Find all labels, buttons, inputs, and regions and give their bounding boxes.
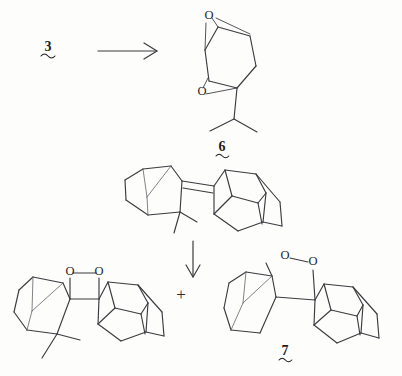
- peroxide-oxygen-1-label: O: [280, 248, 289, 262]
- dx-left-bond-6: [27, 330, 57, 334]
- compound-3-label: 3: [45, 39, 52, 54]
- dx-left-bridge-b: [27, 311, 32, 330]
- bicyclic-bridge-b: [147, 197, 148, 215]
- dioxetane-oxygen-1-label: O: [65, 264, 74, 278]
- c7-adam-bond-15: [361, 333, 379, 338]
- c7-adam-bond-9: [314, 310, 331, 325]
- adam-bond-5: [238, 222, 263, 231]
- bicyclic-bond-4: [148, 212, 180, 215]
- isopropyl-methyl-left: [210, 119, 234, 131]
- c7-adam-bond-6: [314, 325, 337, 343]
- gem-methyl-2: [174, 212, 180, 233]
- dx-left-bond-7: [57, 299, 70, 334]
- c7-adam-bond-7: [314, 300, 315, 325]
- dioxetane-oxygen-2-label: O: [94, 264, 103, 278]
- bicyclic-bond-7: [125, 169, 143, 180]
- compound-6-label: 6: [219, 139, 226, 154]
- c7-left-bond-3: [229, 272, 246, 283]
- dx-adam-bond-10: [115, 308, 141, 314]
- dx-left-bridge-a: [32, 277, 33, 311]
- adam-bond-4: [263, 193, 266, 222]
- reaction-arrow-right: [98, 43, 157, 59]
- alkene-reactant-structure: [125, 166, 282, 233]
- c7-methyl: [266, 263, 272, 276]
- c7-adam-bond-2: [324, 284, 353, 287]
- c7-left-bond-5: [224, 308, 231, 330]
- adam-bond-12: [258, 203, 262, 224]
- adam-bond-13: [256, 174, 280, 202]
- bicyclic-bridge-c: [147, 166, 171, 197]
- c7-left-bond-1: [272, 276, 276, 297]
- dx-adam-bond-13: [138, 285, 162, 312]
- adam-bond-1: [214, 170, 225, 186]
- epoxide-top-bridge-left: [205, 23, 206, 50]
- scheme-canvas: 3 O O: [0, 0, 402, 376]
- dx-adam-bond-6: [98, 324, 121, 341]
- c7-adam-bond-8: [324, 284, 331, 310]
- adam-bond-6: [214, 214, 238, 231]
- c7-left-bond-4: [224, 283, 229, 308]
- adam-bond-2: [225, 170, 256, 174]
- dioxetane-product-structure: O O: [14, 264, 164, 358]
- dx-left-bond-4: [14, 290, 19, 312]
- dx-adam-bond-9: [98, 308, 115, 324]
- c7-adam-bond-13: [353, 287, 377, 314]
- alkene-double-bond-upper: [182, 181, 214, 186]
- dx-adam-bond-14: [162, 312, 164, 336]
- c7-adam-bond-1: [315, 284, 324, 300]
- ring6-bond-b: [250, 36, 256, 66]
- reaction-scheme-figure: 3 O O: [0, 0, 402, 376]
- alkene-double-bond-lower: [183, 188, 213, 193]
- c7-left-bridge-b: [231, 303, 243, 330]
- epoxide-bottom-bridge-right: [206, 88, 237, 94]
- dx-left-bond-3: [19, 277, 33, 290]
- c7-left-bond-6: [231, 330, 260, 333]
- compound-3-group: 3: [41, 39, 55, 58]
- compound-6-underline-squiggle: [216, 154, 229, 158]
- dx-gem-methyl-1: [57, 334, 80, 340]
- c7-left-bond-7: [260, 297, 276, 333]
- dx-left-bond-1: [63, 283, 70, 299]
- compound-3-underline-squiggle: [41, 54, 55, 58]
- dx-adam-bond-1: [99, 282, 108, 299]
- plus-separator: +: [176, 285, 186, 304]
- compound-6-structure: O O 6: [197, 8, 257, 158]
- ring6-bond-d: [209, 81, 237, 88]
- reaction-arrow-down: [186, 241, 200, 277]
- c7-left-bridge-a: [243, 272, 246, 303]
- peroxide-to-quaternary-c: [313, 270, 315, 300]
- dx-adam-bond-4: [146, 303, 148, 332]
- isopropyl-stem: [234, 88, 237, 119]
- dx-adam-bond-7: [98, 299, 99, 324]
- c7-adam-bond-10: [331, 310, 357, 316]
- dx-left-bond-5: [14, 312, 27, 330]
- epoxide-top-oxygen-label: O: [204, 8, 213, 22]
- bicyclic-bond-2: [171, 166, 182, 181]
- gem-methyl-1: [180, 212, 197, 222]
- compound-7-label: 7: [282, 343, 289, 358]
- ring6-bond-c: [237, 66, 256, 88]
- c7-adam-bond-5: [337, 333, 361, 343]
- dx-adam-bond-8: [108, 282, 115, 308]
- compound-7-underline-squiggle: [279, 358, 292, 362]
- adam-bond-9: [214, 196, 232, 214]
- dx-left-bridge-c: [32, 283, 63, 311]
- c7-adam-bond-14: [377, 314, 379, 338]
- peroxide-o-o-bond: [290, 258, 308, 262]
- c7-adam-bond-12: [357, 316, 360, 335]
- bicyclic-bond-1: [143, 166, 171, 169]
- bicyclic-bridge-a: [143, 169, 147, 197]
- c7-central-bond: [276, 297, 315, 300]
- bicyclic-bond-5: [126, 200, 148, 215]
- adam-bond-15: [263, 222, 282, 226]
- dx-adam-bond-12: [141, 314, 145, 334]
- c7-left-bond-2: [246, 272, 272, 276]
- dx-adam-bond-5: [121, 332, 146, 341]
- isopropyl-methyl-right: [234, 119, 257, 132]
- dx-left-bond-2: [33, 277, 63, 283]
- epoxide-bottom-oxygen-label: O: [197, 84, 206, 98]
- dx-adam-bond-2: [108, 282, 138, 285]
- peroxide-oxygen-2-label: O: [308, 254, 317, 268]
- c7-left-bridge-c: [243, 276, 272, 303]
- ring6-bond-f: [205, 27, 218, 50]
